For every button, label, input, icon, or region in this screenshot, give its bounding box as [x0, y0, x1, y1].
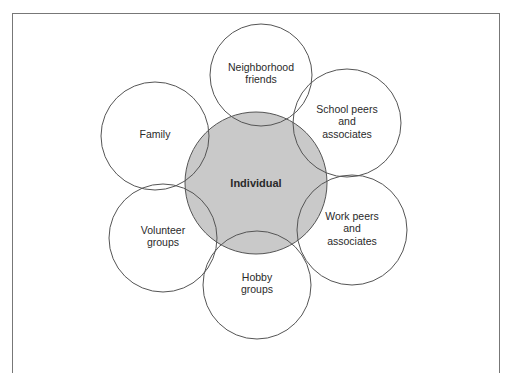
center-label-individual: Individual	[230, 177, 281, 189]
label-hobby: Hobbygroups	[241, 271, 273, 296]
label-family: Family	[140, 128, 172, 140]
label-volunteer: Volunteergroups	[141, 224, 186, 249]
